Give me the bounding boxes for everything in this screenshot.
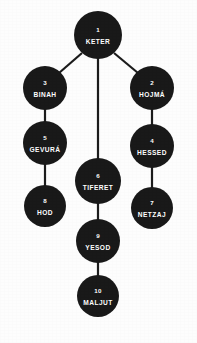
node-circle-gevura[interactable]: [23, 121, 67, 165]
tree-of-life-diagram: 1 KETER 2 HOJMÁ 3 BINAH 4 HESSED 5: [0, 0, 197, 343]
node-circle-hessed[interactable]: [130, 124, 174, 168]
node-circle-hojma[interactable]: [130, 66, 174, 110]
node-number-yesod: 9: [96, 232, 100, 239]
tree-diagram-canvas: 1 KETER 2 HOJMÁ 3 BINAH 4 HESSED 5: [0, 0, 197, 343]
node-circle-yesod[interactable]: [76, 219, 120, 263]
node-circle-hod[interactable]: [24, 185, 66, 227]
node-label-maljut: MALJUT: [83, 299, 112, 306]
node-circle-tiferet[interactable]: [75, 158, 121, 204]
node-hessed[interactable]: 4 HESSED: [130, 124, 174, 168]
node-binah[interactable]: 3 BINAH: [23, 66, 67, 110]
node-number-gevura: 5: [43, 134, 47, 141]
edge-keter-hojma: [114, 53, 138, 73]
node-netzaj[interactable]: 7 NETZAJ: [131, 187, 173, 229]
edge-keter-binah: [59, 53, 82, 73]
node-circle-maljut[interactable]: [77, 275, 119, 317]
node-tiferet[interactable]: 6 TIFERET: [75, 158, 121, 204]
node-label-netzaj: NETZAJ: [138, 211, 166, 218]
node-hod[interactable]: 8 HOD: [24, 185, 66, 227]
node-number-keter: 1: [96, 26, 100, 33]
node-number-hessed: 4: [150, 137, 154, 144]
node-hojma[interactable]: 2 HOJMÁ: [130, 66, 174, 110]
node-label-hessed: HESSED: [137, 149, 167, 156]
node-label-hod: HOD: [37, 209, 53, 216]
node-circle-netzaj[interactable]: [131, 187, 173, 229]
node-number-netzaj: 7: [150, 199, 154, 206]
node-circle-keter[interactable]: [74, 11, 122, 59]
node-number-binah: 3: [43, 79, 47, 86]
node-maljut[interactable]: 10 MALJUT: [77, 275, 119, 317]
node-number-hojma: 2: [150, 79, 154, 86]
node-label-keter: KETER: [86, 38, 111, 45]
node-keter[interactable]: 1 KETER: [74, 11, 122, 59]
node-label-tiferet: TIFERET: [83, 184, 114, 191]
node-number-maljut: 10: [94, 287, 102, 294]
node-label-yesod: YESOD: [85, 244, 110, 251]
node-number-tiferet: 6: [96, 172, 100, 179]
node-label-gevura: GEVURÁ: [30, 145, 61, 153]
node-gevura[interactable]: 5 GEVURÁ: [23, 121, 67, 165]
node-label-hojma: HOJMÁ: [139, 90, 165, 98]
node-label-binah: BINAH: [33, 91, 56, 98]
node-number-hod: 8: [43, 197, 47, 204]
node-yesod[interactable]: 9 YESOD: [76, 219, 120, 263]
node-circle-binah[interactable]: [23, 66, 67, 110]
